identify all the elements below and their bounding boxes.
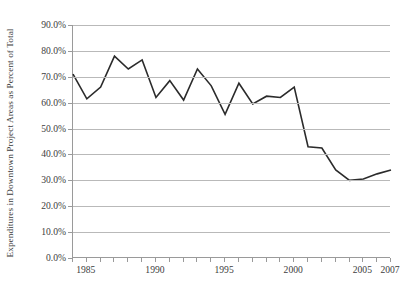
y-tick-label: 60.0% bbox=[0, 98, 66, 108]
x-tick-label: 1985 bbox=[66, 264, 106, 275]
y-tick-mark bbox=[68, 206, 73, 207]
gridline-90.0% bbox=[73, 25, 390, 26]
x-tick-mark bbox=[210, 258, 211, 262]
y-tick-label: 30.0% bbox=[0, 175, 66, 185]
y-tick-mark bbox=[68, 258, 73, 259]
y-tick-mark bbox=[68, 154, 73, 155]
x-tick-mark bbox=[307, 258, 308, 262]
x-tick-mark bbox=[224, 258, 225, 262]
x-tick-mark bbox=[238, 258, 239, 262]
y-tick-mark bbox=[68, 232, 73, 233]
x-tick-mark bbox=[113, 258, 114, 262]
y-tick-mark bbox=[68, 51, 73, 52]
y-tick-mark bbox=[68, 25, 73, 26]
x-axis-tick-labels: 198519901995200020052007 bbox=[72, 264, 390, 278]
gridline-80.0% bbox=[73, 51, 390, 52]
x-tick-mark bbox=[321, 258, 322, 262]
x-tick-mark bbox=[279, 258, 280, 262]
x-tick-label: 2007 bbox=[370, 264, 410, 275]
x-tick-mark bbox=[127, 258, 128, 262]
x-tick-mark bbox=[252, 258, 253, 262]
y-tick-label: 40.0% bbox=[0, 149, 66, 159]
y-tick-label: 20.0% bbox=[0, 201, 66, 211]
gridline-60.0% bbox=[73, 103, 390, 104]
y-tick-label: 0.0% bbox=[0, 253, 66, 263]
x-tick-mark bbox=[169, 258, 170, 262]
y-tick-label: 90.0% bbox=[0, 20, 66, 30]
y-tick-mark bbox=[68, 103, 73, 104]
series-line-chart bbox=[73, 25, 391, 258]
gridline-10.0% bbox=[73, 232, 390, 233]
x-axis-tick-marks bbox=[72, 258, 390, 263]
x-tick-mark bbox=[335, 258, 336, 262]
x-tick-mark bbox=[293, 258, 294, 262]
gridline-40.0% bbox=[73, 154, 390, 155]
x-tick-mark bbox=[349, 258, 350, 262]
x-tick-mark bbox=[390, 258, 391, 262]
x-tick-label: 1990 bbox=[135, 264, 175, 275]
x-tick-mark bbox=[141, 258, 142, 262]
gridline-50.0% bbox=[73, 129, 390, 130]
x-tick-mark bbox=[362, 258, 363, 262]
x-tick-label: 1995 bbox=[204, 264, 244, 275]
x-tick-mark bbox=[183, 258, 184, 262]
y-tick-mark bbox=[68, 77, 73, 78]
plot-area bbox=[72, 25, 390, 258]
y-tick-mark bbox=[68, 129, 73, 130]
y-tick-label: 50.0% bbox=[0, 124, 66, 134]
line-chart-figure: Expenditures in Downtown Project Areas a… bbox=[0, 0, 418, 286]
gridline-30.0% bbox=[73, 180, 390, 181]
x-tick-mark bbox=[266, 258, 267, 262]
x-tick-mark bbox=[86, 258, 87, 262]
y-tick-label: 80.0% bbox=[0, 46, 66, 56]
y-tick-label: 70.0% bbox=[0, 72, 66, 82]
x-tick-label: 2000 bbox=[273, 264, 313, 275]
series-line-expenditures bbox=[73, 56, 391, 180]
y-tick-mark bbox=[68, 180, 73, 181]
x-tick-mark bbox=[196, 258, 197, 262]
x-tick-mark bbox=[155, 258, 156, 262]
gridline-20.0% bbox=[73, 206, 390, 207]
x-tick-mark bbox=[376, 258, 377, 262]
gridline-70.0% bbox=[73, 77, 390, 78]
x-tick-mark bbox=[100, 258, 101, 262]
y-tick-label: 10.0% bbox=[0, 227, 66, 237]
